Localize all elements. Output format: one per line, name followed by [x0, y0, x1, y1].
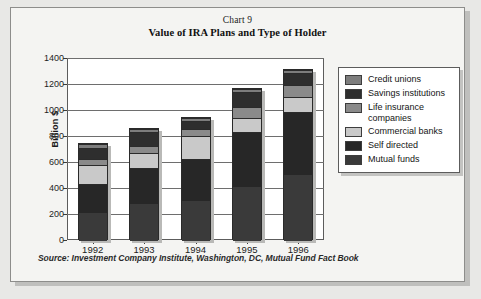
y-tick-label: 800 [10, 131, 64, 141]
bar-segment[interactable] [233, 92, 261, 107]
bar-segment[interactable] [284, 73, 312, 85]
bar-segment[interactable] [130, 168, 158, 204]
bar-segment[interactable] [284, 175, 312, 241]
y-tick-label: 200 [10, 209, 64, 219]
page-title: Value of IRA Plans and Type of Holder [11, 27, 464, 38]
y-tick-mark [63, 240, 67, 241]
y-tick-label: 600 [10, 157, 64, 167]
legend-item-label: Mutual funds [368, 154, 420, 165]
legend-item-label: Self directed [368, 140, 418, 151]
bar-segment[interactable] [284, 85, 312, 97]
legend-swatch-icon [345, 127, 362, 137]
bar-segment[interactable] [79, 148, 107, 159]
legend-item[interactable]: Commercial banks [345, 126, 454, 137]
legend-item[interactable]: Life insurance companies [345, 102, 454, 123]
bar-segment[interactable] [233, 132, 261, 187]
legend-item[interactable]: Savings institutions [345, 88, 454, 99]
bar-segment[interactable] [182, 159, 210, 201]
stacked-bar[interactable] [181, 117, 211, 240]
source-note: Source: Investment Company Institute, Wa… [38, 253, 359, 263]
legend-item-label: Savings institutions [368, 88, 445, 99]
legend-item-label: Life insurance companies [368, 102, 454, 123]
legend-item-label: Credit unions [368, 74, 421, 85]
bar-segment[interactable] [130, 204, 158, 241]
bar-segment[interactable] [284, 112, 312, 174]
bar-segment[interactable] [79, 165, 107, 184]
y-tick-label: 1400 [10, 53, 64, 63]
y-tick-label: 400 [10, 183, 64, 193]
y-tick-label: 1200 [10, 79, 64, 89]
bar-segment[interactable] [130, 146, 158, 153]
bar-segment[interactable] [182, 136, 210, 159]
stacked-bar[interactable] [232, 88, 262, 240]
legend-swatch-icon [345, 75, 362, 85]
bar-segment[interactable] [233, 187, 261, 241]
bar-series-layer [67, 58, 324, 240]
legend-swatch-icon [345, 141, 362, 151]
bar-segment[interactable] [130, 153, 158, 168]
bar-segment[interactable] [79, 184, 107, 213]
legend-swatch-icon [345, 89, 362, 99]
y-tick-label: 0 [10, 235, 64, 245]
bar-segment[interactable] [233, 107, 261, 118]
bar-segment[interactable] [130, 132, 158, 146]
bar-segment[interactable] [182, 201, 210, 241]
stacked-bar[interactable] [129, 128, 159, 240]
bar-segment[interactable] [182, 129, 210, 137]
page-root: Chart 9 Value of IRA Plans and Type of H… [0, 0, 481, 299]
legend-item-label: Commercial banks [368, 126, 443, 137]
legend-swatch-icon [345, 103, 362, 113]
bar-segment[interactable] [284, 97, 312, 113]
bar-segment[interactable] [79, 213, 107, 241]
stacked-bar[interactable] [78, 143, 108, 241]
legend-swatch-icon [345, 155, 362, 165]
title-block: Chart 9 Value of IRA Plans and Type of H… [11, 15, 464, 38]
plot-area: 0200400600800100012001400 19921993199419… [67, 58, 324, 240]
y-tick-label: 1000 [10, 105, 64, 115]
legend-item[interactable]: Self directed [345, 140, 454, 151]
chart-number: Chart 9 [11, 15, 464, 25]
bar-segment[interactable] [233, 118, 261, 132]
chart-legend: Credit unionsSavings institutionsLife in… [338, 67, 460, 173]
legend-item[interactable]: Mutual funds [345, 154, 454, 165]
chart-card: Chart 9 Value of IRA Plans and Type of H… [10, 7, 465, 282]
bar-segment[interactable] [182, 121, 210, 128]
legend-item[interactable]: Credit unions [345, 74, 454, 85]
stacked-bar[interactable] [283, 69, 313, 240]
